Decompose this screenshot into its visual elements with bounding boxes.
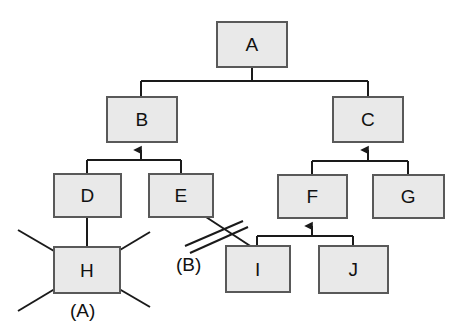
node-c[interactable]: C xyxy=(332,96,404,143)
node-b[interactable]: B xyxy=(106,96,178,143)
annotation-a-label: (A) xyxy=(70,301,95,320)
node-e[interactable]: E xyxy=(148,173,214,218)
diagram-canvas: A B C D E F G H I J (A) (B) xyxy=(0,0,465,334)
node-h[interactable]: H xyxy=(53,246,121,294)
annotation-b-label: (B) xyxy=(176,255,201,274)
node-a-label: A xyxy=(245,35,258,54)
node-d-label: D xyxy=(80,186,94,205)
node-g-label: G xyxy=(401,187,416,206)
node-g[interactable]: G xyxy=(372,174,445,219)
node-b-label: B xyxy=(135,110,148,129)
node-f-label: F xyxy=(306,187,318,206)
node-j[interactable]: J xyxy=(318,245,389,294)
node-d[interactable]: D xyxy=(53,173,122,218)
node-f[interactable]: F xyxy=(277,174,348,219)
node-i-label: I xyxy=(255,260,261,279)
node-c-label: C xyxy=(361,110,375,129)
node-h-label: H xyxy=(80,261,94,280)
node-j-label: J xyxy=(349,260,359,279)
node-e-label: E xyxy=(174,186,187,205)
node-a[interactable]: A xyxy=(216,21,288,68)
node-i[interactable]: I xyxy=(225,245,291,293)
